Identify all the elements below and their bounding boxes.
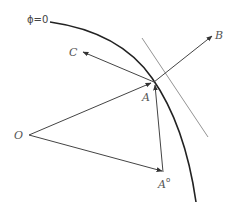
label-O: O (14, 129, 23, 142)
phi-zero-label: ϕ=0 (27, 14, 48, 25)
label-B: B (214, 29, 223, 42)
vector-AB (154, 36, 212, 82)
label-A0-superscript: o (166, 176, 170, 184)
label-A0: A (157, 178, 166, 191)
vector-OA (29, 83, 151, 135)
vector-A0A (155, 85, 163, 172)
vector-OA0 (29, 135, 162, 171)
label-C: C (69, 46, 78, 59)
vector-diagram: ϕ=0 B C A O A o (0, 0, 235, 214)
label-A: A (141, 91, 150, 104)
